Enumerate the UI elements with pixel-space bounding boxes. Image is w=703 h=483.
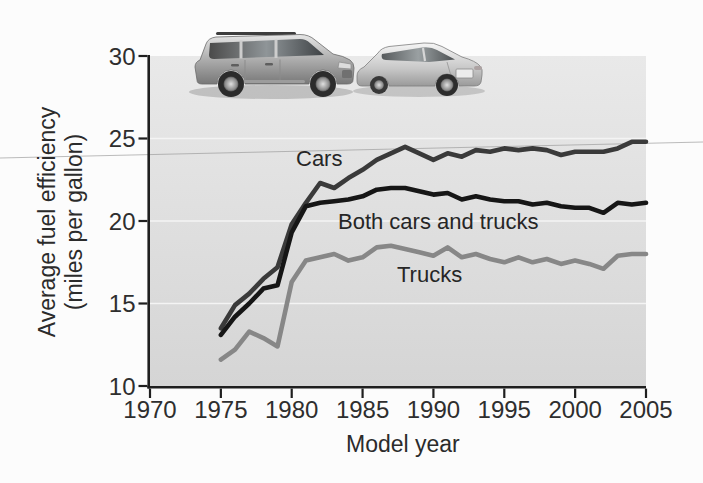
y-tick-labels: 1015202530 — [109, 43, 136, 400]
sedan-taillight — [474, 66, 482, 70]
y-tick-label: 25 — [109, 125, 136, 152]
y-tick-label: 30 — [109, 43, 136, 70]
y-axis-title-line2: (miles per gallon) — [61, 107, 88, 338]
suv-illustration — [183, 22, 358, 102]
x-tick-label: 1980 — [265, 396, 318, 423]
series-label-cars: Cars — [296, 146, 342, 172]
suv-roof-rail — [216, 32, 296, 35]
x-tick-label: 1985 — [336, 396, 389, 423]
sedan-illustration — [349, 33, 491, 99]
x-tick-labels: 19701975198019851990199520002005 — [123, 396, 672, 423]
y-tick-label: 15 — [109, 290, 136, 317]
x-tick-label: 1975 — [194, 396, 247, 423]
x-tick-label: 2000 — [548, 396, 601, 423]
suv-door-handle — [265, 63, 273, 65]
series-label-both: Both cars and trucks — [338, 209, 539, 235]
series-label-trucks: Trucks — [397, 262, 462, 288]
x-tick-label: 1970 — [123, 396, 176, 423]
y-axis-title: Average fuel efficiency (miles per gallo… — [34, 107, 88, 338]
x-tick-label: 1990 — [407, 396, 460, 423]
x-axis-title: Model year — [346, 431, 460, 458]
y-tick-label: 10 — [109, 373, 136, 400]
x-tick-label: 2005 — [619, 396, 672, 423]
suv-door-handle — [231, 64, 239, 66]
y-tick-label: 20 — [109, 208, 136, 235]
y-axis-title-line1: Average fuel efficiency — [34, 107, 61, 338]
sedan-license-plate — [456, 69, 473, 78]
suv-running-board — [239, 80, 305, 83]
figure-root: 19701975198019851990199520002005 1015202… — [0, 0, 703, 483]
x-tick-label: 1995 — [478, 396, 531, 423]
